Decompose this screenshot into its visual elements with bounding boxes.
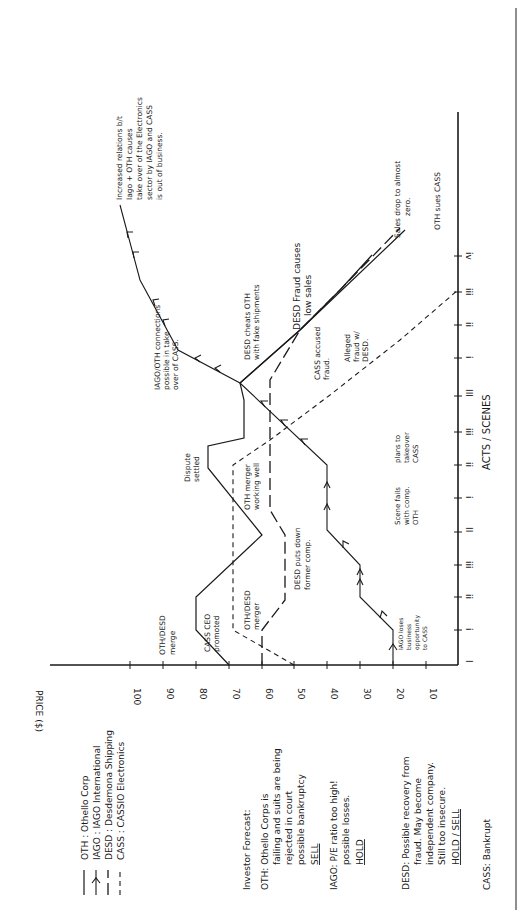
forecast-desd-verdict: HOLD / SELL xyxy=(451,809,461,865)
forecast-oth-verdict: SELL xyxy=(310,844,320,865)
price-tick-20: 20 xyxy=(395,688,405,700)
scene-tick-act-3: III xyxy=(464,389,474,397)
note-increased-4: sector by IAGO and CASS xyxy=(145,105,154,200)
legend: OTH : Othello Corp IAGO : IAGO Internati… xyxy=(80,730,126,895)
note-plans-1: plans to xyxy=(394,435,402,463)
note-iago-connections-2: possible in take xyxy=(162,331,171,390)
scene-tick-1-ii: ii xyxy=(464,594,474,599)
price-tick-labels: 100 90 80 70 60 50 40 30 20 10 xyxy=(132,688,438,705)
note-oth-desd-merge-2: merge xyxy=(168,630,177,655)
note-iago-connections-3: over of CASS. xyxy=(171,339,180,390)
svg-text:Scene fails with comp.: Scene fails with comp. OTH xyxy=(394,484,420,525)
svg-text:OTH/DESD merger: OTH/DESD merger xyxy=(243,588,261,630)
scene-tick-1-iii: iii xyxy=(464,561,474,569)
scene-axis-label: ACTS / SCENES xyxy=(481,394,492,470)
note-scene-fails-1: Scene fails xyxy=(394,487,402,525)
scene-tick-2-iii: iii xyxy=(464,428,474,436)
svg-text:CASS CEO promoted: CASS CEO promoted xyxy=(203,611,221,652)
note-dispute-2: settled xyxy=(192,456,201,482)
note-desd-cheats-1: DESD cheats OTH xyxy=(243,293,252,360)
scene-tick-3-iii: iii xyxy=(464,288,474,296)
note-desd-puts-down-1: DESD puts down xyxy=(293,527,302,590)
note-cass-accused-1: CASS accused xyxy=(313,327,322,380)
forecast-title: Investor Forecast: xyxy=(242,809,252,890)
note-oth-desd-merger-2: merger xyxy=(252,602,261,630)
forecast-oth-2: failing and suits are being xyxy=(272,748,282,865)
legend-label-oth: OTH : Othello Corp xyxy=(80,775,90,860)
svg-text:Sales drop to almost zer: Sales drop to almost zero. xyxy=(393,159,412,239)
price-tick-60: 60 xyxy=(264,688,274,700)
scene-tick-3-iv: iv xyxy=(464,252,474,261)
note-cass-accused-2: fraud. xyxy=(322,358,331,380)
svg-text:Dispute settled: Dispute settled xyxy=(183,451,201,482)
price-tick-40: 40 xyxy=(329,688,339,700)
price-tick-30: 30 xyxy=(362,688,372,700)
forecast-desd-4: Still too insecure. xyxy=(437,787,447,865)
forecast-desd-1: DESD: Possible recovery from xyxy=(401,757,411,890)
note-iago-connections-1: IAGO/OTH connections xyxy=(153,305,162,390)
note-increased-3: take over of the Electronics xyxy=(135,97,144,200)
forecast-oth-1: OTH: Othello Corps is xyxy=(260,793,270,890)
note-alleged-1: Alleged xyxy=(343,334,352,362)
note-cass-ceo-2: promoted xyxy=(212,615,221,652)
forecast-cass: CASS: Bankrupt xyxy=(482,819,492,890)
note-alleged-2: fraud w/ xyxy=(352,331,361,362)
price-tick-90: 90 xyxy=(165,688,175,700)
forecast-iago-verdict: HOLD xyxy=(355,839,365,865)
annotations: OTH/DESD merge CASS CEO promoted OTH/DES… xyxy=(115,95,442,655)
note-merger-working-1: OTH merger xyxy=(243,463,252,510)
svg-text:OTH: Othello Corps is fa: OTH: Othello Corps is failing and suits … xyxy=(260,745,320,890)
svg-text:Alleged fraud w/ D: Alleged fraud w/ DESD. xyxy=(343,329,370,362)
price-tick-80: 80 xyxy=(198,688,208,700)
svg-text:IAGO loses business: IAGO loses business opportunity to CASS xyxy=(397,613,428,650)
note-iago-loses-1: IAGO loses xyxy=(397,618,404,650)
note-increased-1: Increased relations b/t xyxy=(115,116,124,200)
svg-text:IAGO: P/E ratio too high!: IAGO: P/E ratio too high! possible losse… xyxy=(329,777,365,890)
note-scene-fails-2: with comp. xyxy=(403,486,411,525)
svg-text:CASS accused fraud.: CASS accused fraud. xyxy=(313,324,331,380)
forecast-iago-1: IAGO: P/E ratio too high! xyxy=(329,780,339,890)
price-axis-label: PRICE ($) xyxy=(34,690,44,732)
note-plans-3: CASS xyxy=(412,444,420,463)
note-alleged-3: DESD. xyxy=(361,339,370,362)
svg-text:OTH/DESD merge: OTH/DESD merge xyxy=(158,613,177,655)
scene-tick-2-i: i xyxy=(464,496,474,499)
note-desd-cheats-2: with fake shipments xyxy=(252,284,261,360)
note-iago-loses-2: business xyxy=(405,624,412,650)
svg-text:OTH merger working well: OTH merger working well xyxy=(243,462,261,510)
svg-text:DESD: Possible recovery from: DESD: Possible recovery from fraud. May … xyxy=(401,754,461,890)
stock-price-chart: 100 90 80 70 60 50 40 30 20 10 PRICE ($)… xyxy=(0,0,529,923)
scene-tick-3-ii: ii xyxy=(464,322,474,327)
scene-tick-2-ii: ii xyxy=(464,462,474,467)
investor-forecast: Investor Forecast: OTH: Othello Corps is… xyxy=(242,745,492,890)
scene-tick-1-i: i xyxy=(464,628,474,631)
forecast-desd-2: fraud. May become xyxy=(413,778,423,865)
note-oth-sues: OTH sues CASS xyxy=(433,172,442,230)
note-iago-loses-3: opportunity xyxy=(413,615,421,650)
svg-text:DESD Fraud causes low sa: DESD Fraud causes low sales xyxy=(292,240,313,330)
note-increased-5: is out of business. xyxy=(155,132,164,200)
note-sales-drop-1: Sales drop to almost xyxy=(393,161,402,238)
svg-text:DESD cheats OTH with fak: DESD cheats OTH with fake shipments xyxy=(243,284,261,360)
svg-text:IAGO/OTH connections pos: IAGO/OTH connections possible in take ov… xyxy=(153,302,180,390)
price-tick-70: 70 xyxy=(231,688,241,700)
note-merger-working-2: working well xyxy=(252,463,261,510)
series-desd-line xyxy=(262,228,400,665)
note-desd-fraud-1: DESD Fraud causes xyxy=(292,242,302,330)
scene-tick-labels: I i ii iii II i ii iii III i ii iii iv xyxy=(464,252,474,663)
note-increased-2: Iago + OTH causes xyxy=(125,128,134,200)
scene-tick-act-2: II xyxy=(464,527,474,532)
svg-text:Increased relations b/t: Increased relations b/t Iago + OTH cause… xyxy=(115,95,164,200)
note-oth-desd-merge-1: OTH/DESD xyxy=(158,615,167,655)
price-tick-10: 10 xyxy=(428,688,438,700)
iago-arrow-markers xyxy=(127,232,397,650)
note-oth-desd-merger-1: OTH/DESD xyxy=(243,590,252,630)
price-tick-50: 50 xyxy=(296,688,306,700)
note-cass-ceo-1: CASS CEO xyxy=(203,614,212,652)
note-plans-2: takeover xyxy=(403,432,411,463)
note-iago-loses-4: to CASS xyxy=(421,626,428,650)
legend-label-desd: DESD : Desdemona Shipping xyxy=(104,730,114,860)
series-oth-line xyxy=(196,255,372,665)
note-scene-fails-3: OTH xyxy=(412,510,420,525)
note-desd-puts-down-2: former comp. xyxy=(303,539,312,590)
